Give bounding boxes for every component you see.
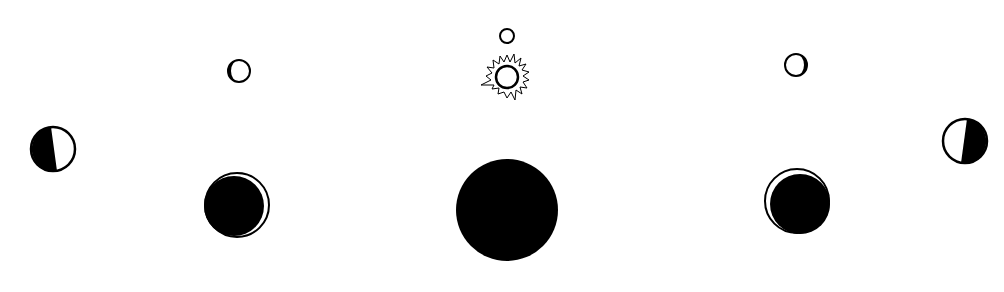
small-moon-left (224, 56, 254, 86)
moon-waning-icon (781, 50, 811, 80)
quarter-moon-left (28, 124, 78, 174)
moon-new-icon (454, 157, 560, 263)
new-moon (454, 157, 560, 263)
quarter-moon-right (940, 116, 990, 166)
moon-crescent-right-lit-icon (202, 170, 272, 240)
moon-half-dark-left-icon (28, 124, 78, 174)
small-moon-right (781, 50, 811, 80)
sun (477, 47, 537, 107)
moon-full-icon (497, 26, 517, 46)
moon-waxing-icon (224, 56, 254, 86)
crescent-moon-right (762, 166, 832, 236)
moon-half-dark-right-icon (940, 116, 990, 166)
crescent-moon-left (202, 170, 272, 240)
small-moon-top (497, 26, 517, 46)
moon-crescent-left-lit-icon (762, 166, 832, 236)
sun-icon (477, 47, 537, 107)
